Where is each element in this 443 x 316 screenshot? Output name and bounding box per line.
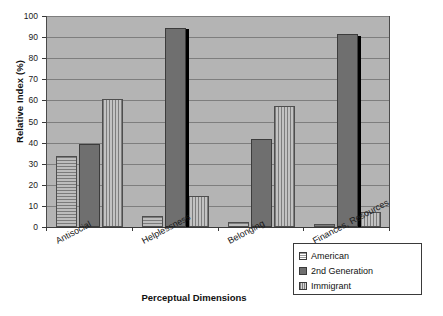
y-axis-tick-label: 100 bbox=[12, 12, 38, 20]
x-axis-tick-mark bbox=[218, 227, 219, 231]
y-axis-tick-label: 90 bbox=[12, 33, 38, 41]
x-axis-tick-mark bbox=[132, 227, 133, 231]
plot-right-border bbox=[389, 16, 390, 227]
y-axis-tick-label: 20 bbox=[12, 181, 38, 189]
bar-2nd-generation-antisocial bbox=[79, 144, 100, 227]
y-axis-tick-mark bbox=[42, 185, 46, 186]
gridline bbox=[47, 16, 389, 17]
legend-label-american: American bbox=[311, 251, 349, 261]
american-swatch-icon bbox=[299, 252, 307, 260]
legend-label-immigrant: Immigrant bbox=[311, 281, 351, 291]
bar-chart: Relative Index (%) 100908070605040302010… bbox=[0, 0, 443, 316]
legend: American 2nd Generation Immigrant bbox=[293, 243, 422, 295]
x-axis-tick-mark bbox=[303, 227, 304, 231]
finances-marker bbox=[358, 36, 361, 227]
y-axis-tick-label: 10 bbox=[12, 202, 38, 210]
y-axis-tick-mark bbox=[42, 58, 46, 59]
y-axis-tick-label: 70 bbox=[12, 75, 38, 83]
y-axis-tick-mark bbox=[42, 100, 46, 101]
y-axis-tick-mark bbox=[42, 79, 46, 80]
y-axis-tick-label: 50 bbox=[12, 118, 38, 126]
bar-immigrant-antisocial bbox=[102, 99, 123, 227]
y-axis-tick-mark bbox=[42, 122, 46, 123]
x-axis-tick-mark bbox=[389, 227, 390, 231]
bar-2nd-generation-finances-resources bbox=[337, 34, 358, 227]
y-axis-tick-label: 60 bbox=[12, 96, 38, 104]
y-axis-tick-label: 40 bbox=[12, 139, 38, 147]
y-axis-tick-mark bbox=[42, 164, 46, 165]
legend-label-second-generation: 2nd Generation bbox=[311, 266, 373, 276]
bar-american-antisocial bbox=[56, 156, 77, 227]
bar-2nd-generation-belonging bbox=[251, 139, 272, 227]
y-axis-tick-label: 30 bbox=[12, 160, 38, 168]
y-axis-tick-mark bbox=[42, 37, 46, 38]
legend-item-american: American bbox=[299, 248, 416, 263]
bar-immigrant-helplessness bbox=[188, 196, 209, 227]
bar-immigrant-belonging bbox=[274, 106, 295, 227]
y-axis-tick-label: 80 bbox=[12, 54, 38, 62]
y-axis-tick-mark bbox=[42, 16, 46, 17]
immigrant-swatch-icon bbox=[299, 282, 307, 290]
y-axis-tick-mark bbox=[42, 143, 46, 144]
second-generation-swatch-icon bbox=[299, 267, 307, 275]
x-axis-tick-mark bbox=[46, 227, 47, 231]
helplessness-marker bbox=[186, 29, 189, 227]
plot-area bbox=[46, 16, 389, 227]
bar-2nd-generation-helplessness bbox=[165, 28, 186, 227]
legend-item-second-generation: 2nd Generation bbox=[299, 263, 416, 278]
y-axis-tick-mark bbox=[42, 206, 46, 207]
y-axis-tick-label: 0 bbox=[12, 223, 38, 231]
legend-item-immigrant: Immigrant bbox=[299, 278, 416, 293]
